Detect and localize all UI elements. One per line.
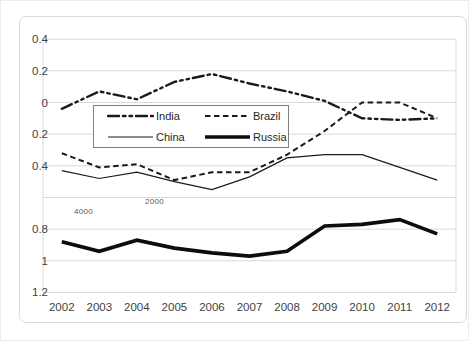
x-axis-label: 2008 [268,301,306,313]
legend-label-russia: Russia [253,131,287,143]
x-axis-label: 2011 [381,301,419,313]
x-axis-label: 2004 [118,301,156,313]
x-axis-label: 2010 [343,301,381,313]
india-line-sample [107,112,154,120]
y-axis-label: 0.2 [8,65,48,77]
plot-area [1,1,469,341]
legend-label-china: China [156,131,185,143]
x-axis-label: 2005 [155,301,193,313]
legend-label-brazil: Brazil [253,110,281,122]
brazil-line-sample [204,112,251,120]
annotation-label: 2000 [145,197,164,206]
x-axis-label: 2006 [193,301,231,313]
y-axis-label: 1 [8,255,48,267]
y-axis-label: 1.2 [8,286,48,298]
legend-item-china: China [94,131,191,143]
legend-item-russia: Russia [191,131,288,143]
y-axis-label: 0.8 [8,223,48,235]
legend-box: India Brazil China Russia [93,105,289,148]
legend-item-india: India [94,110,191,122]
x-axis-label: 2012 [418,301,456,313]
y-axis-label: 0 [8,97,48,109]
x-axis-label: 2007 [231,301,269,313]
x-axis-label: 2003 [80,301,118,313]
y-axis-label: 0.4 [8,33,48,45]
y-axis-label: 0.4 [8,160,48,172]
annotation-label: 4000 [74,207,93,216]
series-line-russia [62,220,437,257]
x-axis-label: 2002 [43,301,81,313]
series-line-china [62,155,437,190]
china-line-sample [107,133,154,141]
x-axis-label: 2009 [306,301,344,313]
y-axis-label: 0.2 [8,128,48,140]
legend-item-brazil: Brazil [191,110,288,122]
legend-label-india: India [156,110,180,122]
line-chart: 0.40.200.20.40.811.220022003200420052006… [0,0,469,341]
russia-line-sample [204,133,251,141]
